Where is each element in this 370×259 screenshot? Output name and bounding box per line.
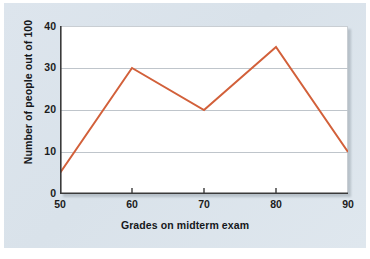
plot-wrapper (60, 26, 348, 194)
x-axis-title: Grades on midterm exam (0, 219, 370, 231)
x-tick-label-60: 60 (112, 199, 152, 210)
chart-figure: 40 30 20 10 0 Number of people out of 10… (0, 0, 370, 259)
x-tick-label-90: 90 (328, 199, 368, 210)
y-tick-label-0: 0 (16, 188, 56, 199)
y-axis-title: Number of people out of 100 (22, 12, 34, 172)
x-tick-label-50: 50 (40, 199, 80, 210)
x-tick-label-80: 80 (256, 199, 296, 210)
chart-canvas (60, 26, 348, 194)
x-tick-label-70: 70 (184, 199, 224, 210)
